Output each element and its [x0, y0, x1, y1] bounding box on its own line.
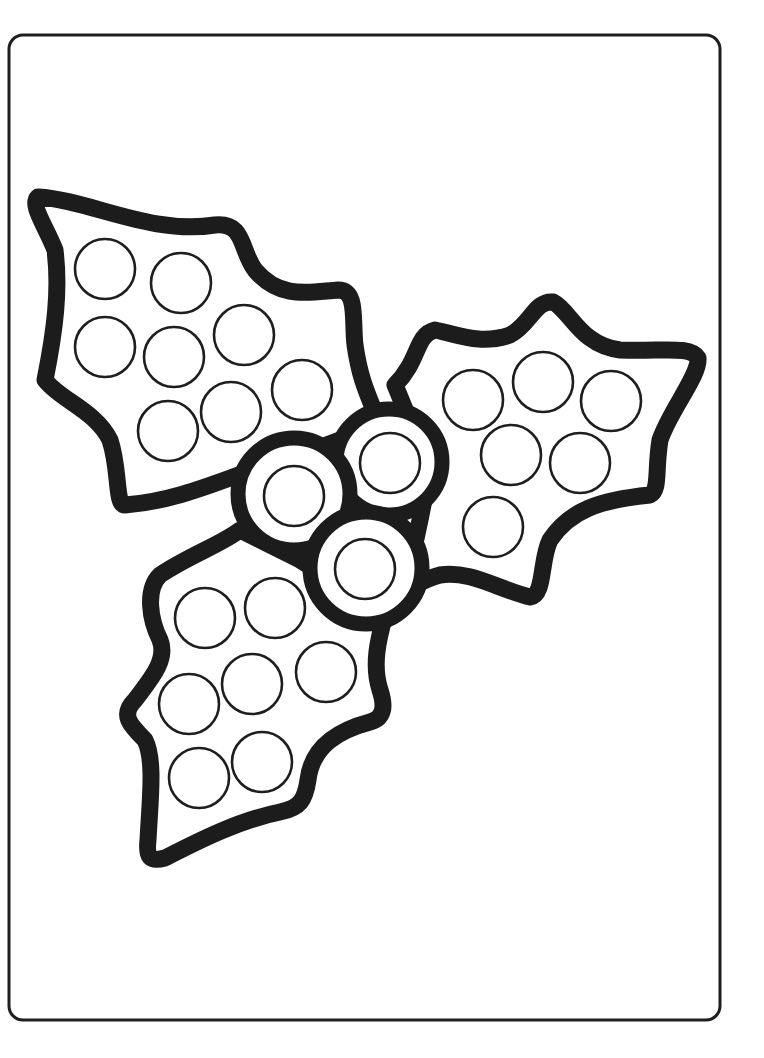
dot-target[interactable]	[245, 578, 305, 638]
dot-target[interactable]	[581, 371, 641, 431]
dot-target[interactable]	[463, 497, 523, 557]
dot-target[interactable]	[360, 433, 420, 493]
dot-target[interactable]	[169, 748, 229, 808]
dot-target[interactable]	[175, 588, 235, 648]
dot-target[interactable]	[264, 466, 324, 526]
dot-target[interactable]	[138, 401, 198, 461]
dot-target[interactable]	[481, 425, 541, 485]
coloring-page-canvas	[0, 0, 764, 1058]
dot-target[interactable]	[550, 433, 610, 493]
dot-target[interactable]	[214, 305, 274, 365]
dot-target[interactable]	[201, 382, 261, 442]
dot-target[interactable]	[159, 674, 219, 734]
dot-target[interactable]	[144, 327, 204, 387]
dot-target[interactable]	[443, 370, 503, 430]
dot-target[interactable]	[151, 253, 211, 313]
dot-target[interactable]	[296, 642, 356, 702]
berry-bottom	[310, 512, 422, 624]
dot-target[interactable]	[335, 539, 395, 599]
dot-target[interactable]	[75, 239, 135, 299]
dot-target[interactable]	[513, 352, 573, 412]
dot-target[interactable]	[75, 317, 135, 377]
dot-target[interactable]	[232, 732, 292, 792]
dot-target[interactable]	[272, 360, 332, 420]
dot-target[interactable]	[222, 654, 282, 714]
